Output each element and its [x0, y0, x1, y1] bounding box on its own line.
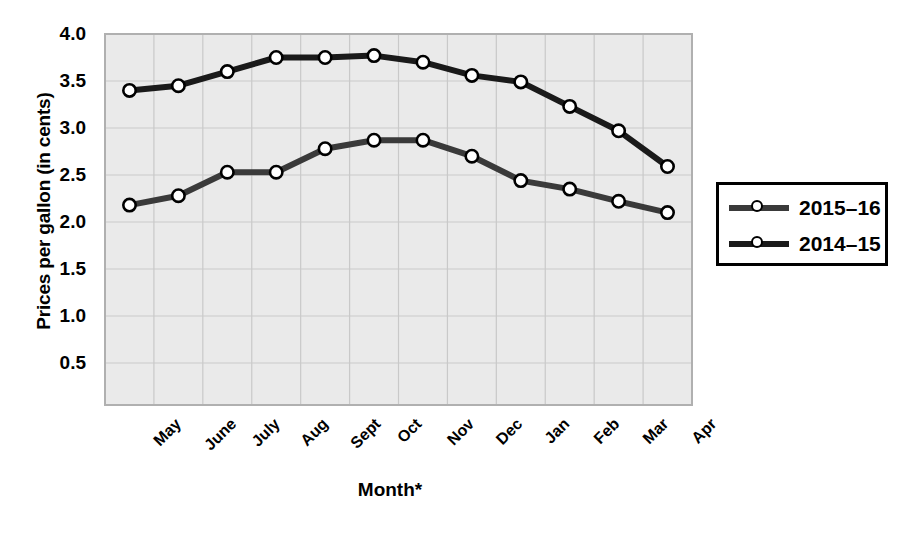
data-point-marker — [612, 195, 624, 207]
legend-item-label: 2014–15 — [799, 232, 881, 256]
data-point-marker — [270, 166, 282, 178]
data-point-marker — [612, 125, 624, 137]
data-point-marker — [172, 190, 184, 202]
data-point-marker — [123, 84, 135, 96]
legend-item-1[interactable]: 2014–15 — [729, 229, 881, 259]
data-point-marker — [270, 51, 282, 63]
legend-line-marker-icon — [729, 234, 789, 254]
line-chart-figure: Prices per gallon (in cents) 4.03.53.02.… — [0, 0, 904, 535]
data-point-marker — [564, 183, 576, 195]
legend-line-marker-icon — [729, 198, 789, 218]
data-point-marker — [417, 56, 429, 68]
data-point-marker — [368, 134, 380, 146]
data-point-marker — [466, 150, 478, 162]
data-point-marker — [515, 76, 527, 88]
data-point-marker — [319, 143, 331, 155]
data-point-marker — [564, 100, 576, 112]
data-point-marker — [319, 51, 331, 63]
data-point-marker — [661, 206, 673, 218]
data-point-marker — [221, 166, 233, 178]
data-point-marker — [515, 174, 527, 186]
data-point-marker — [123, 199, 135, 211]
legend: 2015–16 2014–15 — [716, 182, 888, 266]
data-point-marker — [661, 160, 673, 172]
legend-item-0[interactable]: 2015–16 — [729, 193, 881, 223]
legend-item-label: 2015–16 — [799, 196, 881, 220]
data-point-marker — [221, 65, 233, 77]
data-point-marker — [368, 49, 380, 61]
plot-area — [0, 0, 904, 535]
data-point-marker — [466, 69, 478, 81]
data-point-marker — [417, 134, 429, 146]
x-axis-title: Month* — [300, 479, 480, 501]
data-point-marker — [172, 80, 184, 92]
